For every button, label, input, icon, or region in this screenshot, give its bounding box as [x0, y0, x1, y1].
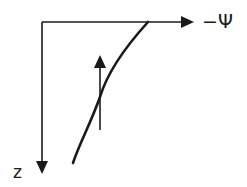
z-axis-arrowhead-icon [36, 161, 48, 174]
x-axis [42, 16, 194, 28]
x-axis-arrowhead-icon [181, 16, 194, 28]
potential-profile-diagram: −Ψ z [0, 0, 247, 187]
z-axis-label: z [13, 164, 22, 181]
profile-curve [73, 22, 148, 163]
upward-flux-arrow [94, 55, 106, 130]
up-arrowhead-icon [94, 55, 106, 68]
x-axis-label: −Ψ [202, 12, 233, 31]
z-axis [36, 22, 48, 174]
